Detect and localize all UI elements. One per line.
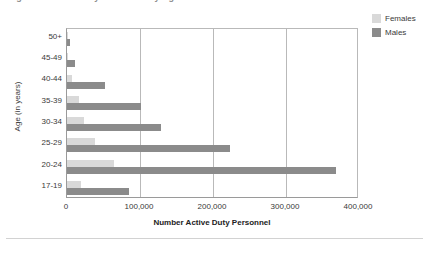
legend-swatch-males-icon xyxy=(372,28,381,37)
x-axis-tick-labels: 0 100,000 200,000 300,000 400,000 xyxy=(66,202,358,214)
chart-legend: Females Males xyxy=(372,13,429,41)
bar-row-25-29 xyxy=(67,135,357,156)
bar-males-30-34 xyxy=(67,124,161,131)
bar-row-40-44 xyxy=(67,72,357,93)
y-tick-label-45-49: 45-49 xyxy=(18,53,62,62)
chart-figure: 50+ 45-49 40-44 35-39 30-34 25-29 20-24 … xyxy=(0,0,429,256)
x-tick-label-300000: 300,000 xyxy=(271,202,300,211)
bar-row-20-24 xyxy=(67,157,357,178)
bar-males-35-39 xyxy=(67,103,141,110)
bar-row-17-19 xyxy=(67,178,357,199)
bar-males-40-44 xyxy=(67,82,105,89)
legend-swatch-females-icon xyxy=(372,14,381,23)
bar-males-45-49 xyxy=(67,60,75,67)
y-tick-label-35-39: 35-39 xyxy=(18,96,62,105)
bar-females-25-29 xyxy=(67,138,95,145)
bar-females-30-34 xyxy=(67,117,84,124)
x-tick-label-200000: 200,000 xyxy=(198,202,227,211)
y-tick-label-17-19: 17-19 xyxy=(18,181,62,190)
bar-females-45-49 xyxy=(67,53,68,60)
x-tick-label-0: 0 xyxy=(64,202,68,211)
y-tick-label-40-44: 40-44 xyxy=(18,74,62,83)
bar-females-20-24 xyxy=(67,160,114,167)
bar-females-35-39 xyxy=(67,96,79,103)
bar-females-17-19 xyxy=(67,181,81,188)
plot-area xyxy=(66,28,358,198)
x-tick-label-100000: 100,000 xyxy=(125,202,154,211)
bar-females-40-44 xyxy=(67,75,72,82)
bar-row-35-39 xyxy=(67,93,357,114)
bar-row-30-34 xyxy=(67,114,357,135)
legend-label-females: Females xyxy=(385,14,416,23)
bar-males-17-19 xyxy=(67,188,129,195)
y-tick-label-50plus: 50+ xyxy=(18,32,62,41)
legend-item-males: Males xyxy=(372,27,429,37)
y-tick-label-30-34: 30-34 xyxy=(18,117,62,126)
bars-layer xyxy=(67,29,357,197)
x-axis-title: Number Active Duty Personnel xyxy=(66,218,358,227)
y-axis-title: Age (in years) xyxy=(13,47,22,167)
bar-males-25-29 xyxy=(67,145,230,152)
bar-row-45-49 xyxy=(67,50,357,71)
bar-row-50plus xyxy=(67,29,357,50)
y-tick-label-20-24: 20-24 xyxy=(18,160,62,169)
legend-label-males: Males xyxy=(385,28,406,37)
legend-item-females: Females xyxy=(372,13,429,23)
bar-females-50plus xyxy=(67,32,68,39)
bar-males-50plus xyxy=(67,39,70,46)
bottom-divider xyxy=(6,238,423,239)
x-tick-label-400000: 400,000 xyxy=(344,202,373,211)
y-axis-tick-labels: 50+ 45-49 40-44 35-39 30-34 25-29 20-24 … xyxy=(18,28,62,198)
bar-males-20-24 xyxy=(67,167,336,174)
y-tick-label-25-29: 25-29 xyxy=(18,138,62,147)
